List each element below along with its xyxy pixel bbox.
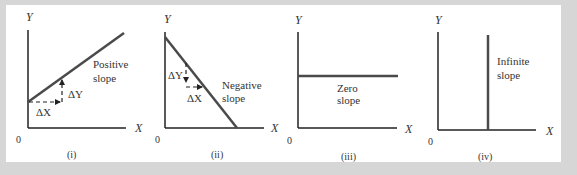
y-axis-label: Y xyxy=(435,13,443,27)
line-label-1: Negative xyxy=(222,79,262,91)
caption: (iv) xyxy=(478,151,492,163)
y-axis-label: Y xyxy=(164,12,172,26)
origin-label: 0 xyxy=(16,134,21,145)
delta-y-label: ΔY xyxy=(68,88,83,100)
line-label-1: Positive xyxy=(93,58,129,70)
x-axis-label: X xyxy=(134,121,143,135)
line-label-2: slope xyxy=(497,69,520,81)
panel-infinite-slope: Y X 0 Infinite slope (iv) xyxy=(428,13,554,163)
x-axis-label: X xyxy=(404,122,413,136)
line-label-2: slope xyxy=(222,92,245,104)
origin-label: 0 xyxy=(287,135,292,146)
slope-diagram: Y X 0 Positive slope ΔY ΔX (i) Y X 0 Neg… xyxy=(0,0,577,175)
x-axis-label: X xyxy=(545,124,554,138)
y-axis-label: Y xyxy=(26,10,34,24)
line-label-1: Zero xyxy=(337,82,358,94)
panel-positive-slope: Y X 0 Positive slope ΔY ΔX (i) xyxy=(16,10,143,161)
caption: (ii) xyxy=(211,149,223,161)
origin-label: 0 xyxy=(155,134,160,145)
panel-zero-slope: Y X 0 Zero slope (iii) xyxy=(287,13,413,163)
caption: (iii) xyxy=(341,151,356,163)
caption: (i) xyxy=(67,149,76,161)
panel-negative-slope: Y X 0 Negative slope ΔY ΔX (ii) xyxy=(155,12,279,161)
x-axis-label: X xyxy=(270,121,279,135)
origin-label: 0 xyxy=(428,136,433,147)
delta-x-label: ΔX xyxy=(187,92,202,104)
line-label-2: slope xyxy=(93,72,116,84)
y-axis-label: Y xyxy=(295,13,303,27)
line-label-1: Infinite xyxy=(497,55,529,67)
delta-x-label: ΔX xyxy=(36,106,51,118)
delta-y-label: ΔY xyxy=(168,69,183,81)
line-label-2: slope xyxy=(337,94,360,106)
